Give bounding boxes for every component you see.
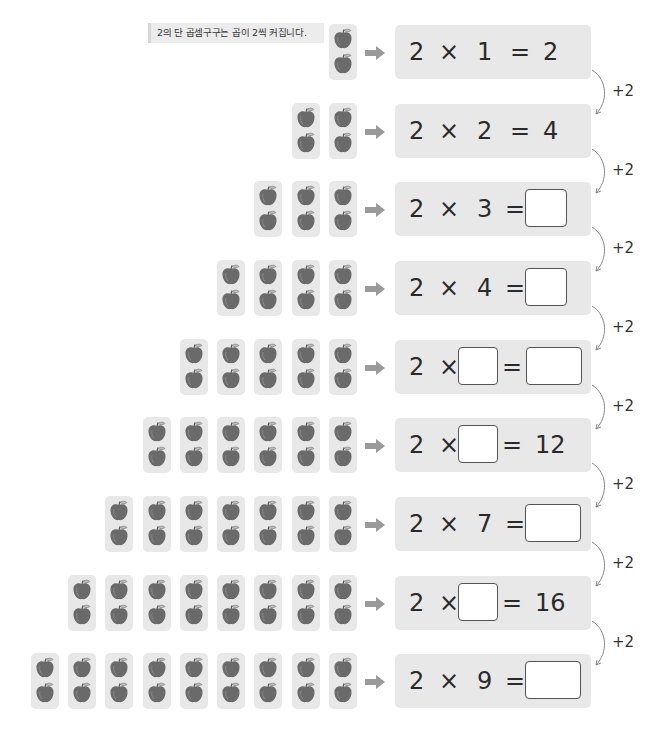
equation-row: 2×7= bbox=[0, 496, 670, 552]
apple-icon bbox=[296, 579, 316, 601]
equation-number: 2 bbox=[409, 418, 424, 472]
apple-icon bbox=[333, 446, 353, 468]
right-arrow-icon bbox=[365, 202, 385, 216]
apple-group bbox=[217, 339, 245, 395]
equation-row: 2×=12 bbox=[0, 417, 670, 473]
equals-sign: = bbox=[502, 576, 522, 630]
answer-blank-input[interactable] bbox=[525, 504, 581, 542]
apple-icon bbox=[296, 289, 316, 311]
equation-number: 2 bbox=[543, 25, 558, 79]
apple-group bbox=[329, 575, 357, 631]
apple-group bbox=[180, 496, 208, 552]
times-sign: × bbox=[439, 104, 459, 158]
apple-icon bbox=[296, 525, 316, 547]
apple-icon bbox=[333, 132, 353, 154]
equation-row: 2×4= bbox=[0, 260, 670, 316]
apple-icon bbox=[296, 446, 316, 468]
multiplier-blank-input[interactable] bbox=[458, 347, 498, 385]
apple-group bbox=[329, 181, 357, 237]
apple-group bbox=[329, 496, 357, 552]
apple-icon bbox=[258, 604, 278, 626]
apple-icon bbox=[333, 210, 353, 232]
apple-group bbox=[143, 417, 171, 473]
apple-icon bbox=[333, 368, 353, 390]
apple-icon bbox=[109, 657, 129, 679]
apple-group bbox=[329, 24, 357, 80]
apple-group bbox=[31, 653, 59, 709]
equation-number: 2 bbox=[477, 104, 492, 158]
equation-number: 2 bbox=[409, 25, 424, 79]
step-label: +2 bbox=[612, 475, 634, 493]
apple-icon bbox=[147, 525, 167, 547]
apple-icon bbox=[221, 289, 241, 311]
apple-icon bbox=[333, 343, 353, 365]
equation-box: 2×9= bbox=[395, 654, 591, 708]
apple-group bbox=[292, 103, 320, 159]
apple-icon bbox=[72, 579, 92, 601]
apple-icon bbox=[109, 579, 129, 601]
equation-number: 4 bbox=[477, 261, 492, 315]
equation-box: 2×= bbox=[395, 340, 591, 394]
equation-number: 2 bbox=[409, 654, 424, 708]
apple-group bbox=[143, 575, 171, 631]
apple-icon bbox=[296, 500, 316, 522]
apple-group bbox=[292, 575, 320, 631]
apple-group bbox=[143, 653, 171, 709]
equation-row: 2×1=2 bbox=[0, 24, 670, 80]
apple-icon bbox=[296, 264, 316, 286]
step-label: +2 bbox=[612, 239, 634, 257]
apple-icon bbox=[184, 421, 204, 443]
answer-blank-input[interactable] bbox=[525, 189, 567, 227]
apple-group bbox=[217, 653, 245, 709]
apple-group bbox=[292, 496, 320, 552]
equation-number: 12 bbox=[535, 418, 566, 472]
apple-icon bbox=[221, 682, 241, 704]
apple-group bbox=[329, 339, 357, 395]
equation-number: 2 bbox=[409, 576, 424, 630]
apple-group bbox=[143, 496, 171, 552]
right-arrow-icon bbox=[365, 596, 385, 610]
apple-icon bbox=[147, 421, 167, 443]
equation-row: 2×2=4 bbox=[0, 103, 670, 159]
apple-icon bbox=[296, 210, 316, 232]
answer-blank-input[interactable] bbox=[525, 268, 567, 306]
right-arrow-icon bbox=[365, 438, 385, 452]
apple-icon bbox=[333, 657, 353, 679]
apple-icon bbox=[333, 525, 353, 547]
apple-icon bbox=[147, 446, 167, 468]
apple-icon bbox=[221, 500, 241, 522]
apple-icon bbox=[184, 343, 204, 365]
apple-icon bbox=[258, 210, 278, 232]
times-sign: × bbox=[439, 497, 459, 551]
apple-group bbox=[292, 260, 320, 316]
apple-group bbox=[329, 260, 357, 316]
apple-group bbox=[68, 653, 96, 709]
apple-icon bbox=[72, 604, 92, 626]
apple-icon bbox=[147, 604, 167, 626]
equation-number: 2 bbox=[409, 340, 424, 394]
answer-blank-input[interactable] bbox=[526, 347, 582, 385]
equals-sign: = bbox=[502, 418, 522, 472]
equals-sign: = bbox=[505, 261, 525, 315]
equals-sign: = bbox=[510, 25, 530, 79]
answer-blank-input[interactable] bbox=[525, 661, 581, 699]
equation-box: 2×=12 bbox=[395, 418, 591, 472]
multiplier-blank-input[interactable] bbox=[458, 425, 498, 463]
apple-icon bbox=[333, 107, 353, 129]
equation-number: 16 bbox=[535, 576, 566, 630]
equation-number: 3 bbox=[477, 182, 492, 236]
apple-icon bbox=[72, 682, 92, 704]
equals-sign: = bbox=[505, 182, 525, 236]
apple-icon bbox=[296, 604, 316, 626]
apple-icon bbox=[296, 368, 316, 390]
multiplier-blank-input[interactable] bbox=[458, 583, 498, 621]
apple-icon bbox=[184, 682, 204, 704]
apple-icon bbox=[109, 604, 129, 626]
apple-icon bbox=[221, 264, 241, 286]
step-label: +2 bbox=[612, 397, 634, 415]
apple-icon bbox=[333, 289, 353, 311]
equation-number: 2 bbox=[409, 497, 424, 551]
apple-icon bbox=[258, 446, 278, 468]
apple-icon bbox=[221, 579, 241, 601]
apple-icon bbox=[147, 500, 167, 522]
